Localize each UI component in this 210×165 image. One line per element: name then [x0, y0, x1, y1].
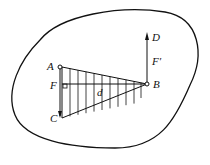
- label-B: B: [153, 79, 160, 90]
- force-F-prime-arrowhead: [145, 32, 149, 40]
- diagram-canvas: [0, 0, 210, 165]
- rigid-body-outline: [12, 10, 198, 148]
- label-C: C: [50, 113, 57, 124]
- force-F-arrowhead: [58, 111, 62, 118]
- label-F-prime: F′: [152, 56, 161, 67]
- label-d: d: [97, 87, 103, 98]
- right-angle-marker: [63, 84, 67, 88]
- point-B: [145, 82, 149, 86]
- label-F: F: [50, 80, 57, 91]
- point-A: [58, 65, 62, 69]
- label-A: A: [47, 61, 54, 72]
- label-D: D: [152, 32, 160, 43]
